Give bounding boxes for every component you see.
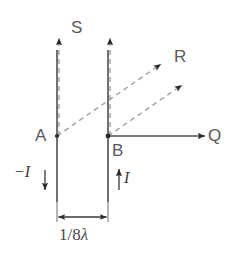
point-b-marker	[106, 134, 111, 139]
label-spacing: 1/8λ	[59, 226, 88, 243]
direction-arrow-r-from-a	[57, 64, 161, 136]
label-current-right: I	[124, 170, 129, 186]
physics-diagram: S R Q A B −I I 1/8λ	[0, 0, 239, 258]
spacing-value: 1/8	[59, 225, 81, 244]
label-b: B	[112, 142, 123, 159]
label-r: R	[174, 48, 186, 65]
point-a-marker	[55, 134, 59, 138]
label-s: S	[71, 19, 82, 36]
label-current-left: −I	[14, 164, 30, 180]
spacing-unit: λ	[81, 225, 88, 244]
spacing-dimension-line	[57, 198, 108, 222]
label-q: Q	[208, 127, 221, 144]
dashed-diagonal-arrow-a	[57, 64, 161, 136]
label-a: A	[35, 127, 46, 144]
